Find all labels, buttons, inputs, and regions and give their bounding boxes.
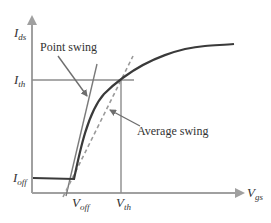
average-swing-pointer-arrow <box>110 110 140 126</box>
x-axis-label: Vgs <box>247 185 263 202</box>
v-th-label: Vth <box>116 195 131 212</box>
subthreshold-swing-diagram: Ids Vgs Ith Ioff Voff Vth Point swing Av… <box>0 0 271 223</box>
point-swing-tangent-line <box>66 64 97 196</box>
y-axis-label: Ids <box>13 25 27 42</box>
i-off-label: Ioff <box>12 170 28 187</box>
point-swing-pointer-arrow <box>58 56 87 96</box>
v-off-label: Voff <box>72 195 91 212</box>
point-swing-label: Point swing <box>40 40 97 54</box>
average-swing-label: Average swing <box>137 124 208 138</box>
i-th-label: Ith <box>13 72 26 89</box>
